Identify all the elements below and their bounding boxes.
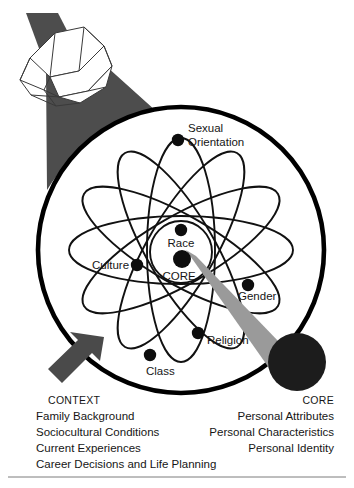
caption-context-line-2: Sociocultural Conditions [36,426,160,438]
node-dot-culture [131,259,143,271]
node-label-gender: Gender [238,290,277,302]
node-label-class: Class [146,365,175,377]
caption-core-heading: CORE [302,394,334,406]
caption-context-line-4: Career Decisions and Life Planning [36,458,216,470]
caption-core-line-3: Personal Identity [248,442,334,454]
node-dot-sexual-orientation [172,134,184,146]
core-disc [268,333,326,391]
core-nucleus-dot [173,250,191,268]
caption-core-line-2: Personal Characteristics [209,426,334,438]
node-label-sexual-orientation-line1: Sexual [188,122,223,134]
node-label-culture: Culture [92,259,129,271]
center-label-race: Race [168,237,195,249]
caption-context-line-3: Current Experiences [36,442,141,454]
center-label-core: CORE [162,270,196,282]
node-label-sexual-orientation-line2: Orientation [188,136,244,148]
figure-canvas: Sexual Orientation Race CORE Culture Gen… [0,0,354,488]
node-label-religion: Religion [207,334,249,346]
diagram-svg: Sexual Orientation Race CORE Culture Gen… [0,0,354,488]
caption-core-line-1: Personal Attributes [237,410,334,422]
caption-context-heading: CONTEXT [48,394,101,406]
caption-context-line-1: Family Background [36,410,134,422]
node-dot-class [144,349,156,361]
node-dot-race [175,224,187,236]
node-dot-religion [192,327,204,339]
